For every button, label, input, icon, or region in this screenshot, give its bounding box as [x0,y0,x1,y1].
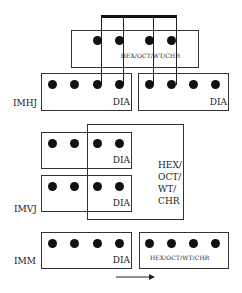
right-arrow-icon [0,0,242,293]
